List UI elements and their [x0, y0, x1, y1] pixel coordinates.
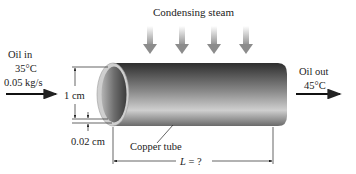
length-value: = ? [186, 156, 202, 167]
inlet-flow-rate: 0.05 kg/s [4, 76, 43, 89]
copper-tube-label: Copper tube [130, 140, 182, 153]
inlet-temperature: 35°C [15, 62, 37, 75]
steam-arrows [143, 26, 253, 54]
steam-arrow-icon [207, 26, 221, 54]
diagram-canvas: Condensing steam Oil in 35°C 0.05 kg/s O… [0, 0, 356, 174]
inlet-label: Oil in [8, 48, 32, 61]
outlet-label: Oil out [299, 65, 328, 78]
condensing-steam-label: Condensing steam [153, 6, 234, 19]
length-label: L = ? [180, 155, 202, 168]
diameter-label: 1 cm [64, 89, 85, 102]
copper-tube [97, 63, 287, 126]
steam-arrow-icon [175, 26, 189, 54]
steam-arrow-icon [239, 26, 253, 54]
outlet-temperature: 45°C [304, 79, 326, 92]
thickness-label: 0.02 cm [71, 135, 105, 148]
steam-arrow-icon [143, 26, 157, 54]
